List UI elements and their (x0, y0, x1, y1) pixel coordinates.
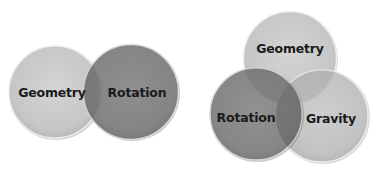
set-label-geometry: Geometry (256, 41, 324, 56)
three-set-venn: Geometry Rotation Gravity (210, 12, 370, 165)
two-set-venn: Geometry Rotation (9, 45, 180, 142)
set-label-rotation: Rotation (217, 110, 276, 125)
set-label-gravity: Gravity (306, 111, 356, 126)
set-label-geometry: Geometry (18, 85, 86, 100)
venn-diagrams-canvas: Geometry Rotation Geometry Rotation Grav… (0, 0, 373, 175)
set-label-rotation: Rotation (108, 85, 167, 100)
